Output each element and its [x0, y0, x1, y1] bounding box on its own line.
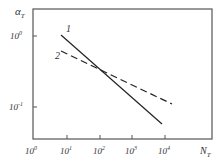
x-tick-label-10e3: 103 [125, 145, 137, 156]
x-tick-label-10e1: 101 [60, 145, 72, 156]
series-2-label: 2 [55, 50, 60, 61]
series-1-line [61, 35, 162, 124]
series-1-label: 1 [66, 23, 71, 34]
x-tick-label-10e2: 102 [93, 145, 105, 156]
x-tick-label-10e0: 100 [25, 145, 37, 156]
series-2-line [61, 51, 172, 104]
plot-frame [33, 9, 212, 139]
y-tick-label-10e-1: 10-1 [9, 101, 23, 112]
y-tick-label-10e0: 100 [10, 30, 22, 41]
chart: 1 2 αT 100 10-1 100 101 102 103 104 NT [0, 0, 224, 162]
y-axis-label: αT [15, 5, 26, 20]
x-axis-label: NT [199, 145, 212, 159]
x-tick-label-10e4: 104 [158, 145, 170, 156]
